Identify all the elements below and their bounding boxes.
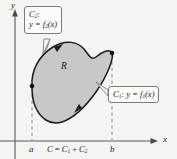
y-axis-arrowhead xyxy=(12,9,18,17)
region-boundary xyxy=(32,42,112,123)
c2-callout-line1: C2: xyxy=(29,9,57,19)
c1-callout: C1: y = f1(x) xyxy=(108,86,159,103)
equation-equals: = xyxy=(53,144,62,154)
x-axis-arrowhead xyxy=(151,138,159,144)
endpoint-dot-b xyxy=(110,51,115,56)
y-axis-label: y xyxy=(11,1,15,10)
y-axis xyxy=(12,9,18,159)
tick-label-b: b xyxy=(110,145,115,154)
c2-callout-line2: y = f2(x) xyxy=(29,19,57,29)
c2-callout: C2: y = f2(x) xyxy=(24,6,62,34)
tick-label-a: a xyxy=(29,145,34,154)
endpoint-dot-a xyxy=(30,84,35,89)
c2-function-rhs: (x) xyxy=(48,19,57,29)
c1-function-rhs: (x) xyxy=(145,89,154,99)
c2-function-lhs: y = f xyxy=(29,19,45,29)
c2-colon: : xyxy=(37,9,39,19)
region-label: R xyxy=(61,62,67,72)
greens-theorem-figure: y x R a b C = C1 + C2 C2: y = f2(x) C1: … xyxy=(0,0,177,159)
c1-function-lhs: : y = f xyxy=(121,89,142,99)
equation-term2-sub: 2 xyxy=(85,148,88,154)
equation-plus: + xyxy=(70,144,79,154)
curve-sum-equation: C = C1 + C2 xyxy=(47,145,87,154)
x-axis-label: x xyxy=(163,135,167,144)
